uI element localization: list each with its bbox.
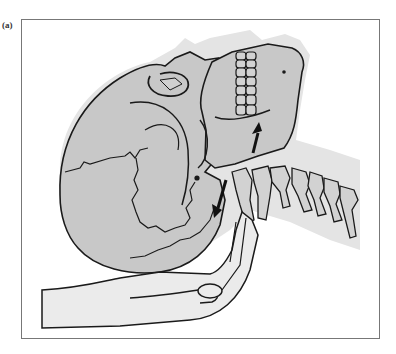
foramen-dot: [282, 70, 286, 74]
thumbnail: [198, 284, 222, 298]
skull-hand-illustration: [0, 0, 396, 354]
mastoid-dot: [194, 175, 199, 180]
